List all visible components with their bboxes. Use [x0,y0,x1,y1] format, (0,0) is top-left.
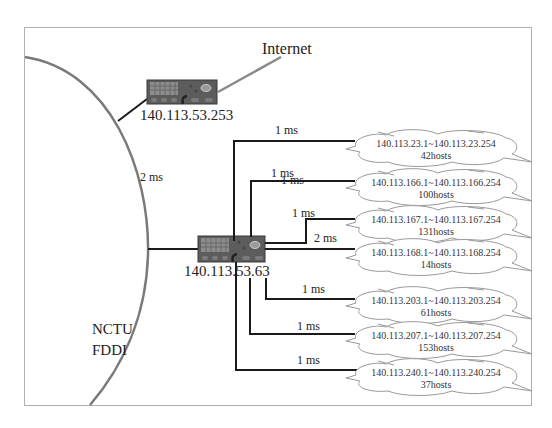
network-topology-diagram: NCTU FDDI 2 ms Internet 140.113.53.253 [0,0,552,428]
subnet-range: 140.113.203.1~140.113.203.254 [371,295,501,306]
router-dial-icon [201,85,211,92]
latency-label-subnet-207: 1 ms [297,319,320,333]
latency-label-subnet-203: 1 ms [302,282,325,296]
subnet-range: 140.113.168.1~140.113.168.254 [371,247,501,258]
latency-label-subnet-23: 1 ms [275,123,298,137]
subnet-host-count: 153hosts [418,342,454,353]
subnet-range: 140.113.167.1~140.113.167.254 [371,214,501,225]
internet-label: Internet [262,40,312,57]
subnet-host-count: 100hosts [418,189,454,200]
latency-label-subnet-240: 1 ms [297,353,320,367]
latency-label-subnet-166-overlap: 1 ms [281,173,304,187]
core-router[interactable] [198,236,265,262]
subnet-host-count: 37hosts [421,379,452,390]
subnet-host-count: 61hosts [421,307,452,318]
subnet-host-count: 42hosts [421,150,452,161]
latency-label-subnet-168: 2 ms [314,231,337,245]
router-dial-icon [250,242,260,249]
latency-label-subnet-167: 1 ms [292,206,315,220]
router-panel-grid [150,82,178,95]
fddi-label-fddi: FDDI [92,342,127,358]
subnet-range: 140.113.240.1~140.113.240.254 [371,367,501,378]
subnet-range: 140.113.166.1~140.113.166.254 [371,177,501,188]
core-router-ip: 140.113.53.63 [184,263,270,279]
border-router[interactable] [147,80,217,104]
border-router-ip: 140.113.53.253 [140,107,233,123]
subnet-host-count: 131hosts [418,226,454,237]
subnet-host-count: 14hosts [421,259,452,270]
fddi-latency-label: 2 ms [140,170,163,184]
fddi-label-nctu: NCTU [92,321,133,337]
subnet-range: 140.113.207.1~140.113.207.254 [371,330,501,341]
router-panel-grid [201,238,229,252]
subnet-range: 140.113.23.1~140.113.23.254 [376,138,496,149]
